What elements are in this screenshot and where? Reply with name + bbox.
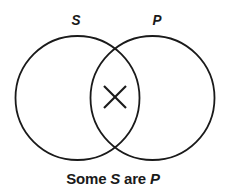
caption-predicate: P bbox=[150, 170, 160, 187]
diagram-caption: Some S are P bbox=[0, 171, 226, 187]
caption-word-some: Some bbox=[66, 170, 110, 187]
caption-word-are: are bbox=[120, 170, 150, 187]
set-label-p: P bbox=[153, 12, 162, 27]
x-mark-icon bbox=[104, 86, 126, 108]
set-label-s: S bbox=[72, 12, 81, 27]
caption-subject: S bbox=[110, 170, 120, 187]
venn-circles bbox=[0, 0, 226, 188]
circle-p bbox=[91, 36, 215, 160]
venn-diagram: S P Some S are P bbox=[0, 0, 226, 188]
circle-s bbox=[16, 36, 140, 160]
